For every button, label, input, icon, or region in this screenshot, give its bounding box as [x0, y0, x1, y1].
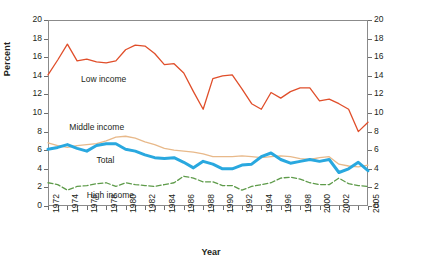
y-tick-label-l-12: 12 — [26, 89, 42, 98]
chart-figure: Percent Year 02468101214161820 024681012… — [0, 0, 422, 270]
y-tick-label-r-8: 8 — [374, 127, 390, 136]
y-tick-label-l-6: 6 — [26, 145, 42, 154]
x-tick-1974 — [67, 206, 68, 210]
y-tick-r-16 — [368, 57, 372, 58]
y-tick-label-r-16: 16 — [374, 52, 390, 61]
y-tick-label-r-6: 6 — [374, 145, 390, 154]
x-tick-1996 — [281, 206, 282, 210]
y-tick-label-r-2: 2 — [374, 182, 390, 191]
y-tick-label-l-2: 2 — [26, 182, 42, 191]
x-tick-1992 — [242, 206, 243, 210]
plot-area: 02468101214161820 02468101214161820 1972… — [48, 20, 368, 206]
y-tick-label-r-18: 18 — [374, 34, 390, 43]
y-tick-label-r-10: 10 — [374, 108, 390, 117]
y-tick-label-l-14: 14 — [26, 71, 42, 80]
series-lines — [48, 20, 368, 206]
y-tick-r-20 — [368, 20, 372, 21]
y-tick-label-l-0: 0 — [26, 201, 42, 210]
y-tick-label-l-16: 16 — [26, 52, 42, 61]
y-tick-r-10 — [368, 113, 372, 114]
x-tick-label-2005: 2005 — [372, 194, 381, 213]
x-tick-1998 — [300, 206, 301, 210]
x-tick-1980 — [126, 206, 127, 210]
y-tick-label-r-14: 14 — [374, 71, 390, 80]
series-line-low-income — [48, 44, 368, 131]
y-tick-r-8 — [368, 132, 372, 133]
y-tick-r-12 — [368, 94, 372, 95]
x-tick-1994 — [261, 206, 262, 210]
x-tick-2002 — [339, 206, 340, 210]
y-tick-label-l-8: 8 — [26, 127, 42, 136]
series-label-middle-income: Middle income — [69, 122, 124, 132]
y-tick-label-l-18: 18 — [26, 34, 42, 43]
x-axis-title: Year — [0, 247, 422, 257]
y-tick-r-6 — [368, 150, 372, 151]
y-tick-r-2 — [368, 187, 372, 188]
x-tick-1986 — [184, 206, 185, 210]
x-tick-1982 — [145, 206, 146, 210]
x-tick-1988 — [203, 206, 204, 210]
y-tick-label-r-12: 12 — [374, 89, 390, 98]
y-tick-label-r-20: 20 — [374, 15, 390, 24]
x-tick-1972 — [48, 206, 49, 210]
x-tick-2005 — [368, 206, 369, 210]
series-label-total: Total — [96, 155, 114, 165]
x-tick-2000 — [320, 206, 321, 210]
y-tick-label-r-4: 4 — [374, 164, 390, 173]
y-tick-r-18 — [368, 39, 372, 40]
x-tick-1990 — [223, 206, 224, 210]
y-tick-label-l-10: 10 — [26, 108, 42, 117]
y-tick-label-l-20: 20 — [26, 15, 42, 24]
x-tick-1976 — [87, 206, 88, 210]
x-tick-1978 — [106, 206, 107, 210]
x-tick-2004 — [358, 206, 359, 210]
series-label-low-income: Low income — [81, 74, 126, 84]
x-tick-1984 — [164, 206, 165, 210]
y-tick-r-14 — [368, 76, 372, 77]
series-label-high-income: High income — [87, 190, 134, 200]
series-line-high-income — [48, 176, 368, 190]
y-tick-label-l-4: 4 — [26, 164, 42, 173]
y-axis-title: Percent — [2, 24, 12, 94]
